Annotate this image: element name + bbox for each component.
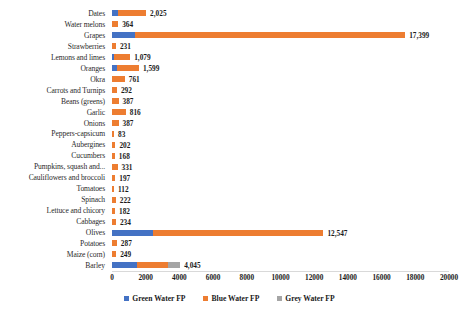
stacked-bar xyxy=(112,32,405,38)
bar-row: 761 xyxy=(112,74,449,85)
bar-value-label: 231 xyxy=(120,42,131,51)
bar-row: 331 xyxy=(112,161,449,172)
stacked-bar xyxy=(112,219,116,225)
stacked-bar xyxy=(112,197,116,203)
bar-segment-blue-water-fp xyxy=(135,32,405,38)
x-tick-label: 20000 xyxy=(440,273,458,282)
bar-segment-blue-water-fp xyxy=(112,197,116,203)
bar-segment-blue-water-fp xyxy=(112,109,126,115)
bar-row: 387 xyxy=(112,118,449,129)
bar-value-label: 234 xyxy=(120,217,131,226)
category-label: Pumpkins, squash and... xyxy=(0,161,108,172)
bar-value-label: 197 xyxy=(119,173,130,182)
bar-segment-blue-water-fp xyxy=(112,240,117,246)
bar-value-label: 12,547 xyxy=(327,228,347,237)
legend-label: Green Water FP xyxy=(132,294,185,303)
category-label: Carrots and Turnips xyxy=(0,85,108,96)
category-label: Spinach xyxy=(0,194,108,205)
bar-row: 1,079 xyxy=(112,52,449,63)
bar-row: 2,025 xyxy=(112,8,449,19)
bar-value-label: 761 xyxy=(129,75,140,84)
bar-value-label: 182 xyxy=(119,206,130,215)
stacked-bar xyxy=(112,43,116,49)
stacked-bar xyxy=(112,251,116,257)
category-label: Barley xyxy=(0,260,108,271)
bar-segment-blue-water-fp xyxy=(112,87,117,93)
bar-row: 12,547 xyxy=(112,227,449,238)
bar-row: 83 xyxy=(112,128,449,139)
x-axis-line xyxy=(112,271,449,272)
legend-item[interactable]: Green Water FP xyxy=(124,294,185,303)
bar-row: 234 xyxy=(112,216,449,227)
x-tick-label: 0 xyxy=(110,273,114,282)
bar-row: 182 xyxy=(112,205,449,216)
stacked-bar xyxy=(112,10,146,16)
stacked-bar xyxy=(112,54,130,60)
legend-item[interactable]: Blue Water FP xyxy=(203,294,259,303)
category-label: Tomatoes xyxy=(0,183,108,194)
category-label: Lettuce and chicory xyxy=(0,205,108,216)
x-axis-tick-labels: 0200040006000800010000120001400016000180… xyxy=(112,273,449,285)
category-label: Okra xyxy=(0,74,108,85)
x-tick-label: 16000 xyxy=(372,273,390,282)
x-tick-label: 6000 xyxy=(206,273,221,282)
stacked-bar xyxy=(112,175,115,181)
bar-value-label: 112 xyxy=(118,184,129,193)
bar-segment-blue-water-fp xyxy=(114,54,130,60)
bar-segment-blue-water-fp xyxy=(112,208,115,214)
bar-value-label: 222 xyxy=(120,195,131,204)
stacked-bar xyxy=(112,208,115,214)
bar-segment-blue-water-fp xyxy=(112,251,116,257)
category-label: Grapes xyxy=(0,30,108,41)
bar-value-label: 249 xyxy=(120,250,131,259)
category-label: Cauliflowers and broccoli xyxy=(0,172,108,183)
bar-segment-blue-water-fp xyxy=(137,262,168,268)
category-label: Oranges xyxy=(0,63,108,74)
x-tick-label: 12000 xyxy=(305,273,323,282)
bar-row: 17,399 xyxy=(112,30,449,41)
category-label: Lemons and limes xyxy=(0,52,108,63)
bar-segment-blue-water-fp xyxy=(112,219,116,225)
bar-segment-blue-water-fp xyxy=(112,120,119,126)
bar-segment-blue-water-fp xyxy=(112,142,115,148)
stacked-bar xyxy=(112,153,115,159)
stacked-bar xyxy=(112,186,114,192)
water-footprint-bar-chart: DatesWater melonsGrapesStrawberriesLemon… xyxy=(0,0,459,323)
stacked-bar xyxy=(112,240,117,246)
bar-value-label: 2,025 xyxy=(150,9,166,18)
category-label: Maize (corn) xyxy=(0,249,108,260)
category-label: Strawberries xyxy=(0,41,108,52)
bar-value-label: 83 xyxy=(118,129,125,138)
bar-segment-blue-water-fp xyxy=(112,175,115,181)
stacked-bar xyxy=(112,87,117,93)
bar-segment-blue-water-fp xyxy=(112,98,119,104)
bar-row: 4,045 xyxy=(112,260,449,271)
category-label: Onions xyxy=(0,118,108,129)
bar-segment-blue-water-fp xyxy=(117,65,139,71)
bar-segment-blue-water-fp xyxy=(112,186,114,192)
x-tick-label: 2000 xyxy=(138,273,153,282)
x-tick-label: 8000 xyxy=(240,273,255,282)
bar-segment-blue-water-fp xyxy=(118,10,147,16)
x-tick-label: 18000 xyxy=(406,273,424,282)
bar-segment-blue-water-fp xyxy=(112,153,115,159)
bar-value-label: 364 xyxy=(122,20,133,29)
stacked-bar xyxy=(112,65,139,71)
bar-value-label: 331 xyxy=(122,162,133,171)
legend-item[interactable]: Grey Water FP xyxy=(277,294,334,303)
category-label: Garlic xyxy=(0,107,108,118)
bar-row: 292 xyxy=(112,85,449,96)
bar-row: 1,599 xyxy=(112,63,449,74)
bar-row: 816 xyxy=(112,107,449,118)
category-label: Cucumbers xyxy=(0,150,108,161)
bar-value-label: 4,045 xyxy=(184,261,200,270)
stacked-bar xyxy=(112,21,118,27)
bar-segment-grey-water-fp xyxy=(168,262,180,268)
stacked-bar xyxy=(112,164,118,170)
bar-value-label: 168 xyxy=(119,151,130,160)
bar-segment-blue-water-fp xyxy=(153,230,323,236)
stacked-bar xyxy=(112,98,119,104)
category-label: Cabbages xyxy=(0,216,108,227)
category-label: Water melons xyxy=(0,19,108,30)
legend-swatch-icon xyxy=(124,296,129,301)
